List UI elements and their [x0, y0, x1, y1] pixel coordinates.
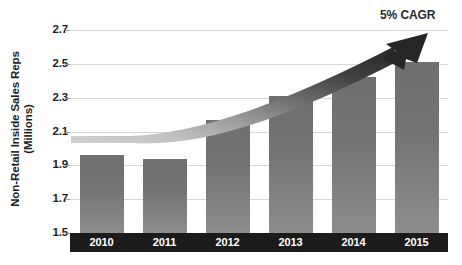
bar-chart: Non-Retail Inside Sales Reps (Millions) … [0, 0, 462, 265]
x-axis-label-2015: 2015 [385, 233, 448, 252]
bar-2011 [143, 159, 187, 233]
y-axis-tick-label: 1.9 [34, 158, 68, 170]
y-axis-tick [65, 64, 70, 65]
gridline [70, 64, 448, 65]
y-axis-tick-label: 2.5 [34, 57, 68, 69]
bar-2012 [206, 120, 250, 233]
y-axis-title-line1: Non-Retail Inside Sales Reps [9, 51, 22, 207]
gridline [70, 165, 448, 166]
y-axis-tick [65, 132, 70, 133]
bar-2013 [269, 96, 313, 233]
y-axis-tick [65, 30, 70, 31]
y-axis-tick-label: 1.5 [34, 226, 68, 238]
gridline [70, 132, 448, 133]
gridline [70, 98, 448, 99]
y-axis-tick-label: 2.1 [34, 125, 68, 137]
y-axis-tick-label: 1.7 [34, 192, 68, 204]
x-axis-label-2014: 2014 [322, 233, 385, 252]
cagr-label: 5% CAGR [380, 8, 435, 22]
bar-2014 [332, 77, 376, 233]
gridline [70, 199, 448, 200]
x-axis-label-2013: 2013 [259, 233, 322, 252]
x-axis-label-2012: 2012 [196, 233, 259, 252]
bar-2010 [80, 155, 124, 233]
bar-2015 [395, 62, 439, 233]
plot-area [70, 30, 448, 233]
x-axis-label-2010: 2010 [70, 233, 133, 252]
y-axis-tick-label: 2.3 [34, 91, 68, 103]
x-axis-label-2011: 2011 [133, 233, 196, 252]
y-axis-tick-label: 2.7 [34, 23, 68, 35]
y-axis-tick [65, 98, 70, 99]
gridline [70, 30, 448, 31]
y-axis-tick [65, 199, 70, 200]
x-axis-band: 201020112012201320142015 [70, 233, 448, 252]
y-axis-tick-labels: 1.51.71.92.12.32.52.7 [34, 0, 68, 265]
y-axis-tick [65, 165, 70, 166]
